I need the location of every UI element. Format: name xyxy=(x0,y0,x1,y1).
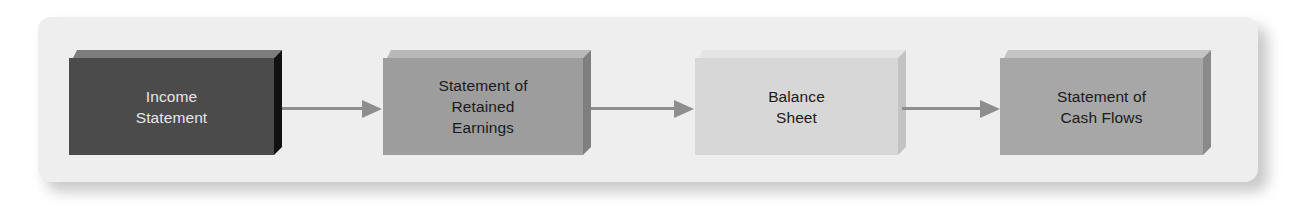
box-side-face xyxy=(583,50,591,155)
node-cash-flows: Statement of Cash Flows xyxy=(1000,58,1203,155)
box-front-face: Income Statement xyxy=(69,58,274,155)
node-label-line: Statement of xyxy=(438,75,527,96)
node-balance-sheet: Balance Sheet xyxy=(695,58,898,155)
node-retained-earnings: Statement of Retained Earnings xyxy=(383,58,583,155)
node-label-line: Cash Flows xyxy=(1057,107,1146,128)
node-label: Statement of Cash Flows xyxy=(1057,86,1146,128)
box-front-face: Balance Sheet xyxy=(695,58,898,155)
box-side-face xyxy=(274,50,282,155)
arrow-right-icon xyxy=(362,100,382,118)
arrow-retained-to-balance xyxy=(591,103,694,115)
box-side-face xyxy=(1203,50,1211,155)
arrow-right-icon xyxy=(980,100,1000,118)
box-front-face: Statement of Retained Earnings xyxy=(383,58,583,155)
node-label-line: Statement xyxy=(136,107,208,128)
node-label-line: Retained xyxy=(438,96,527,117)
node-label-line: Statement of xyxy=(1057,86,1146,107)
box-front-face: Statement of Cash Flows xyxy=(1000,58,1203,155)
node-label-line: Sheet xyxy=(768,107,825,128)
node-label-line: Income xyxy=(136,86,208,107)
arrow-shaft xyxy=(282,107,368,110)
arrow-income-to-retained xyxy=(282,103,382,115)
arrow-right-icon xyxy=(674,100,694,118)
box-top-face xyxy=(387,50,591,58)
arrow-shaft xyxy=(591,107,680,110)
box-top-face xyxy=(73,50,282,58)
node-label: Income Statement xyxy=(136,86,208,128)
node-label-line: Earnings xyxy=(438,117,527,138)
box-top-face xyxy=(699,50,906,58)
node-label: Balance Sheet xyxy=(768,86,825,128)
node-label: Statement of Retained Earnings xyxy=(438,75,527,138)
box-top-face xyxy=(1004,50,1211,58)
node-income-statement: Income Statement xyxy=(69,58,274,155)
arrow-shaft xyxy=(902,107,986,110)
node-label-line: Balance xyxy=(768,86,825,107)
arrow-balance-to-cashflows xyxy=(902,103,1000,115)
